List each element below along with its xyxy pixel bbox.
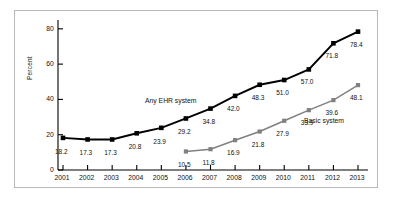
data-point-marker [110,137,115,142]
data-point-marker [184,116,189,121]
y-tick-label: 80 [46,25,54,32]
data-label: 16.9 [227,149,240,156]
x-tick-label: 2007 [202,174,217,181]
y-tick-label: 40 [46,95,54,102]
data-label: 20.8 [129,143,142,150]
data-label: 57.0 [301,78,314,85]
data-point-marker [258,129,262,133]
y-tick-label: 20 [46,131,54,138]
data-label: 29.2 [178,128,191,135]
x-tick-label: 2012 [325,174,340,181]
x-tick-label: 2008 [227,174,242,181]
data-label: 17.3 [104,149,117,156]
data-label: 51.0 [276,89,289,96]
x-tick-label: 2013 [350,174,365,181]
data-label: 17.3 [80,149,93,156]
data-point-marker [331,41,336,46]
x-tick-label: 2010 [276,174,291,181]
data-label: 21.8 [252,141,265,148]
y-tick-label: 60 [46,60,54,67]
data-label: 23.9 [153,138,166,145]
x-tick-label: 2006 [177,174,192,181]
data-point-marker [356,83,360,87]
data-point-marker [356,29,361,34]
data-point-marker [233,94,238,99]
data-point-marker [257,82,262,87]
data-point-marker [134,131,139,136]
series-markers [61,29,361,153]
data-point-marker [208,147,212,151]
data-point-marker [282,78,287,83]
data-label: 48.3 [252,94,265,101]
data-point-marker [307,108,311,112]
data-point-marker [282,119,286,123]
series-annotation-any-ehr: Any EHR system [145,97,196,104]
data-point-marker [233,138,237,142]
data-point-marker [61,136,66,141]
data-label: 39.6 [325,109,338,116]
data-point-marker [184,149,188,153]
x-tick-label: 2009 [251,174,266,181]
series-annotation-basic: Basic system [304,117,344,124]
x-tick-label: 2001 [55,174,70,181]
data-point-marker [208,106,213,111]
x-tick-label: 2002 [79,174,94,181]
data-label: 42.0 [227,105,240,112]
data-label: 78.4 [350,41,363,48]
x-tick-label: 2004 [128,174,143,181]
data-point-marker [331,98,335,102]
data-label: 48.1 [350,94,363,101]
y-axis-title: Percent [26,56,33,80]
data-label: 27.9 [276,130,289,137]
data-point-marker [159,126,164,131]
data-label: 18.2 [55,148,68,155]
data-point-marker [85,137,90,142]
x-tick-label: 2011 [300,174,315,181]
series-lines [63,32,358,152]
data-label: 10.5 [178,161,191,168]
data-label: 71.8 [325,52,338,59]
data-label: 34.8 [203,118,216,125]
data-point-marker [307,67,312,72]
x-tick-label: 2003 [104,174,119,181]
y-tick-label: 0 [50,166,54,173]
x-tick-label: 2005 [153,174,168,181]
data-label: 11.8 [203,159,215,166]
